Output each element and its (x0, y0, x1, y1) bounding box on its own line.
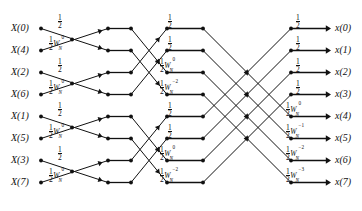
arrowhead (326, 157, 331, 163)
node-dot (70, 126, 74, 130)
arrowhead (326, 179, 331, 185)
output-label-x2: x(2) (335, 66, 351, 77)
stage1-coef-row6: 12 (58, 146, 62, 163)
stage3-coef-row6: 12WN−2 (286, 146, 306, 163)
arrowhead (326, 135, 331, 141)
stage2-coef-row4: 12 (168, 102, 172, 119)
stage1-coef-row3: 12WN0 (49, 80, 66, 97)
stage2-coef-row2: 12WN0 (160, 58, 177, 75)
input-label-X1: X(1) (11, 110, 29, 121)
stage1-coef-row7: 12WN0 (49, 168, 66, 185)
stage3-coef-row5: 12WN−1 (286, 124, 306, 141)
stage2-coef-row6: 12WN0 (160, 146, 177, 163)
stage1-coef-row0: 12 (58, 14, 62, 31)
input-label-X6: X(6) (11, 88, 29, 99)
stage3-coef-row0: 12 (296, 14, 300, 31)
output-label-x1: x(1) (335, 44, 351, 55)
stage2-coef-row7: 12WN−2 (160, 168, 180, 185)
input-label-X2: X(2) (11, 66, 29, 77)
fft-flow-graph: X(0)X(4)X(2)X(6)X(1)X(5)X(3)X(7)x(0)x(1)… (0, 0, 362, 211)
output-label-x6: x(6) (335, 154, 351, 165)
stage1-coef-row1: 12WN0 (49, 36, 66, 53)
arrowhead (326, 113, 331, 119)
stage3-coef-row7: 12WN−3 (286, 168, 306, 185)
input-label-X5: X(5) (11, 132, 29, 143)
arrowhead (326, 69, 331, 75)
output-label-x0: x(0) (335, 22, 351, 33)
node-dot (70, 82, 74, 86)
stage3-coef-row2: 12 (296, 58, 300, 75)
node-dot (70, 170, 74, 174)
input-label-X3: X(3) (11, 154, 29, 165)
stage3-coef-row1: 12 (296, 36, 300, 53)
input-label-X7: X(7) (11, 176, 29, 187)
stage2-coef-row0: 12 (168, 14, 172, 31)
stage2-coef-row1: 12 (168, 36, 172, 53)
stage2-coef-row3: 12WN−2 (160, 80, 180, 97)
input-label-X0: X(0) (11, 22, 29, 33)
arrowhead (326, 91, 331, 97)
stage1-coef-row4: 12 (58, 102, 62, 119)
stage2-coef-row5: 12 (168, 124, 172, 141)
output-label-x4: x(4) (335, 110, 351, 121)
stage1-coef-row5: 12WN0 (49, 124, 66, 141)
input-label-X4: X(4) (11, 44, 29, 55)
stage3-coef-row4: 12WN0 (286, 102, 303, 119)
output-label-x7: x(7) (335, 176, 351, 187)
stage1-coef-row2: 12 (58, 58, 62, 75)
arrowhead (326, 47, 331, 53)
stage3-coef-row3: 12 (296, 80, 300, 97)
arrowhead (326, 25, 331, 31)
output-label-x3: x(3) (335, 88, 351, 99)
output-label-x5: x(5) (335, 132, 351, 143)
node-dot (70, 38, 74, 42)
